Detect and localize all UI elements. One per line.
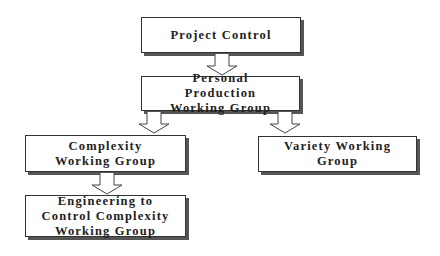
down-arrow-icon	[268, 112, 302, 134]
node-label: Personal Production Working Group	[156, 71, 285, 116]
node-variety: Variety Working Group	[258, 136, 417, 172]
node-label: Complexity Working Group	[42, 139, 169, 169]
down-arrow-icon	[137, 112, 171, 134]
node-complexity: Complexity Working Group	[25, 135, 186, 172]
arrow-project-to-personal	[205, 54, 239, 76]
node-project-control: Project Control	[141, 17, 301, 53]
arrow-personal-to-variety	[268, 112, 302, 134]
node-label: Engineering to Control Complexity Workin…	[36, 194, 175, 239]
node-label: Variety Working Group	[281, 139, 394, 169]
node-personal-production: Personal Production Working Group	[141, 76, 300, 111]
arrow-personal-to-complexity	[137, 112, 171, 134]
arrow-complexity-to-engineering	[90, 173, 124, 195]
down-arrow-icon	[205, 54, 239, 76]
down-arrow-icon	[90, 173, 124, 195]
node-label: Project Control	[170, 28, 271, 43]
node-engineering-control: Engineering to Control Complexity Workin…	[25, 195, 186, 237]
